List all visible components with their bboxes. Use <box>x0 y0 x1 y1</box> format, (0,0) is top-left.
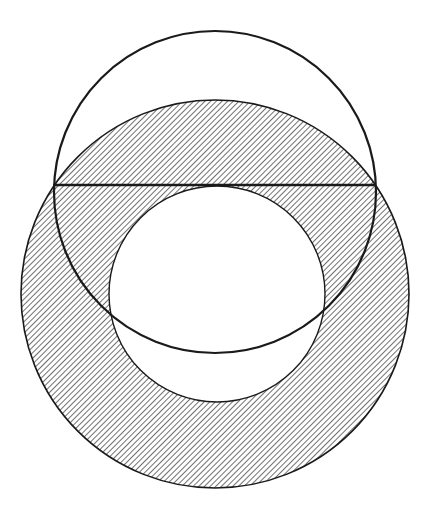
geometry-figure <box>0 0 429 509</box>
inner-circle <box>109 186 325 402</box>
